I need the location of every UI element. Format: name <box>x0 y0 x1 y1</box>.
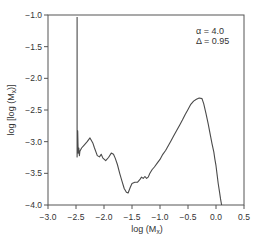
x-tick-label: −0.5 <box>180 212 197 222</box>
y-tick-label: −2.0 <box>25 73 42 83</box>
y-tick-label: −3.0 <box>25 137 42 147</box>
x-tick-label: −3.0 <box>40 212 57 222</box>
chart: −3.0−2.5−2.0−1.5−1.0−0.50.00.5 −1.0−1.5−… <box>0 0 261 245</box>
x-axis-ticks: −3.0−2.5−2.0−1.5−1.0−0.50.00.5 <box>40 205 251 222</box>
x-axis-label: log (Mx) <box>131 224 162 235</box>
delta-annotation: Δ = 0.95 <box>196 36 229 46</box>
y-tick-label: −1.5 <box>25 42 42 52</box>
y-tick-label: −1.0 <box>25 10 42 20</box>
y-tick-label: −2.5 <box>25 105 42 115</box>
x-tick-label: −2.5 <box>68 212 85 222</box>
x-tick-label: −1.0 <box>152 212 169 222</box>
x-tick-label: −2.0 <box>96 212 113 222</box>
alpha-annotation: α = 4.0 <box>196 26 224 36</box>
x-tick-label: 0.0 <box>210 212 222 222</box>
parameter-annotations: α = 4.0Δ = 0.95 <box>196 26 229 46</box>
y-tick-label: −3.5 <box>25 168 42 178</box>
y-axis-label: log [log (Mx)] <box>6 85 17 136</box>
x-tick-label: −1.5 <box>124 212 141 222</box>
x-tick-label: 0.5 <box>238 212 250 222</box>
y-tick-label: −4.0 <box>25 200 42 210</box>
y-axis-ticks: −1.0−1.5−2.0−2.5−3.0−3.5−4.0 <box>25 10 48 210</box>
